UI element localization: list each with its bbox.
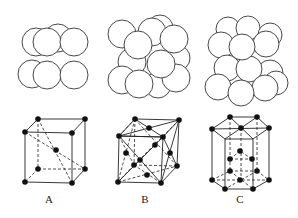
- atom-dot: [222, 186, 228, 192]
- atom-dot: [249, 156, 255, 162]
- sphere: [253, 31, 279, 57]
- atom-dot: [132, 116, 138, 122]
- atom-dot: [250, 186, 256, 192]
- atom-dot: [82, 166, 88, 172]
- atom-dot: [174, 163, 180, 169]
- atom-dot: [237, 148, 243, 154]
- atom-dot: [146, 125, 152, 131]
- atom-dot: [158, 180, 164, 186]
- sphere-packing-hcp: [205, 16, 288, 106]
- sphere: [125, 70, 153, 98]
- atom-dot: [176, 117, 182, 123]
- visible-edge: [118, 182, 161, 183]
- atom-dot: [209, 126, 215, 132]
- visible-edge: [72, 169, 85, 183]
- atom-dot: [123, 150, 129, 156]
- atom-dot: [22, 179, 28, 185]
- visible-edge: [119, 136, 163, 137]
- atom-dot: [152, 142, 158, 148]
- hidden-edge: [134, 165, 177, 166]
- atom-dot: [131, 162, 137, 168]
- sphere: [229, 34, 255, 60]
- sphere-packing-bcc: [18, 24, 88, 89]
- visible-edge: [25, 132, 72, 133]
- crystal-structure-figure: A B C: [0, 0, 298, 218]
- label-b: B: [141, 193, 148, 205]
- sphere: [160, 25, 188, 53]
- sphere: [147, 50, 175, 78]
- atom-dot: [237, 177, 243, 183]
- sphere: [60, 61, 88, 89]
- atom-dot: [266, 125, 272, 131]
- atom-dot: [69, 130, 75, 136]
- sphere: [205, 74, 231, 100]
- atom-dot: [144, 172, 150, 178]
- sphere: [124, 31, 152, 59]
- sphere: [228, 80, 254, 106]
- sphere: [60, 28, 88, 56]
- sphere-packing-fcc: [108, 15, 190, 98]
- visible-edge: [118, 136, 119, 182]
- visible-edge: [212, 117, 230, 129]
- atom-dot: [69, 180, 75, 186]
- visible-edge: [25, 182, 72, 183]
- atom-dot: [227, 114, 233, 120]
- atom-dot: [266, 177, 272, 183]
- atom-dot: [160, 134, 166, 140]
- atom-dot: [254, 168, 260, 174]
- sphere: [252, 75, 278, 101]
- visible-edge: [135, 119, 179, 120]
- label-c: C: [236, 193, 243, 205]
- atom-dot: [227, 168, 233, 174]
- unit-cell-hcp: [209, 114, 272, 192]
- visible-edge: [72, 119, 85, 133]
- atom-dot: [35, 166, 41, 172]
- sphere: [33, 28, 61, 56]
- hidden-edge: [134, 119, 135, 165]
- atom-dot: [137, 157, 143, 163]
- atom-dot: [116, 133, 122, 139]
- atom-dot: [82, 116, 88, 122]
- atom-dot: [227, 156, 233, 162]
- unit-cell-bcc: [22, 116, 88, 186]
- atom-dot: [35, 116, 41, 122]
- sphere: [33, 61, 61, 89]
- atom-dot: [238, 125, 244, 131]
- atom-dot: [22, 129, 28, 135]
- atom-dot: [254, 114, 260, 120]
- atom-dot: [209, 177, 215, 183]
- hidden-edge: [212, 171, 230, 180]
- atom-dot: [167, 150, 173, 156]
- label-a: A: [45, 193, 53, 205]
- visible-edge: [253, 128, 269, 139]
- atom-dot: [115, 179, 121, 185]
- unit-cell-fcc: [115, 116, 182, 186]
- atom-dot: [53, 147, 59, 153]
